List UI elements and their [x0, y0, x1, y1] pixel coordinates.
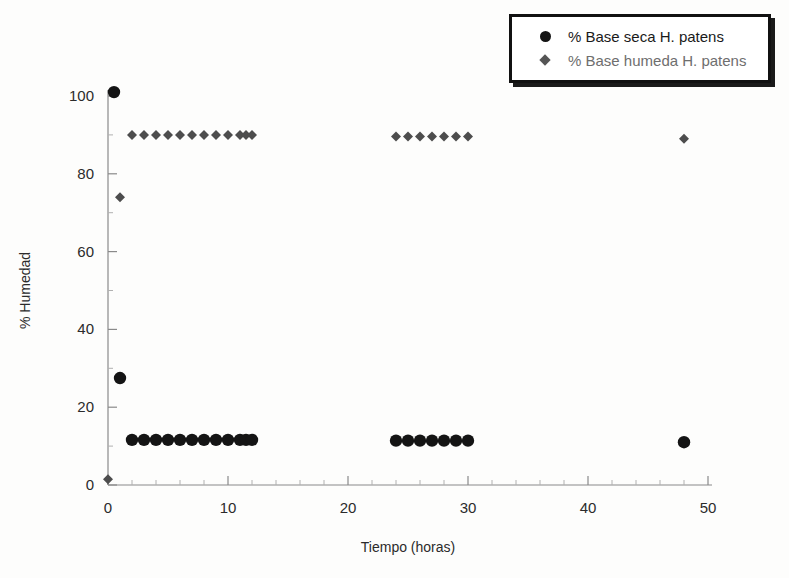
chart-page: % Base seca H. patens % Base humeda H. p…	[0, 0, 789, 578]
data-point-circle	[426, 434, 438, 446]
data-point-diamond	[403, 131, 413, 141]
x-tick-label: 10	[220, 499, 237, 516]
y-tick-label: 0	[86, 476, 94, 493]
scatter-plot: 01020304050020406080100Tiempo (horas)% H…	[0, 0, 789, 578]
x-axis-title: Tiempo (horas)	[361, 539, 455, 555]
data-point-diamond	[415, 131, 425, 141]
x-tick-label: 50	[700, 499, 717, 516]
data-point-diamond	[127, 130, 137, 140]
x-tick-label: 40	[580, 499, 597, 516]
x-tick-label: 30	[460, 499, 477, 516]
data-point-circle	[198, 434, 210, 446]
data-point-diamond	[223, 130, 233, 140]
data-point-diamond	[463, 131, 473, 141]
x-tick-label: 20	[340, 499, 357, 516]
y-tick-label: 20	[77, 398, 94, 415]
data-point-diamond	[199, 130, 209, 140]
data-point-diamond	[427, 131, 437, 141]
x-tick-label: 0	[104, 499, 112, 516]
data-point-diamond	[247, 130, 257, 140]
data-point-circle	[402, 434, 414, 446]
y-axis-title: % Humedad	[17, 252, 33, 329]
data-point-circle	[462, 434, 474, 446]
y-tick-label: 60	[77, 243, 94, 260]
data-point-circle	[414, 434, 426, 446]
data-point-circle	[174, 434, 186, 446]
data-point-circle	[108, 86, 120, 98]
data-point-circle	[162, 434, 174, 446]
y-tick-label: 40	[77, 320, 94, 337]
data-point-circle	[678, 436, 690, 448]
data-point-circle	[390, 434, 402, 446]
data-point-circle	[222, 434, 234, 446]
data-point-circle	[210, 434, 222, 446]
data-point-diamond	[679, 134, 689, 144]
data-point-diamond	[451, 131, 461, 141]
data-point-diamond	[151, 130, 161, 140]
data-point-circle	[114, 372, 126, 384]
data-point-diamond	[139, 130, 149, 140]
data-point-diamond	[391, 131, 401, 141]
data-point-circle	[126, 434, 138, 446]
data-point-diamond	[439, 131, 449, 141]
data-point-circle	[138, 434, 150, 446]
data-point-diamond	[175, 130, 185, 140]
y-tick-label: 80	[77, 165, 94, 182]
data-point-diamond	[115, 192, 125, 202]
y-tick-label: 100	[69, 87, 94, 104]
data-point-circle	[186, 434, 198, 446]
data-point-diamond	[103, 474, 113, 484]
data-point-circle	[438, 434, 450, 446]
data-point-circle	[450, 434, 462, 446]
data-point-diamond	[187, 130, 197, 140]
data-point-circle	[150, 434, 162, 446]
data-point-diamond	[211, 130, 221, 140]
data-point-circle	[246, 434, 258, 446]
data-point-diamond	[163, 130, 173, 140]
